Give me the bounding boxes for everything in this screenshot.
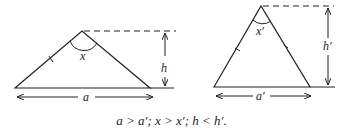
base-label: a — [83, 90, 89, 104]
left-triangle: x h a — [15, 31, 176, 104]
angle-label: x′ — [255, 24, 264, 38]
height-label: h′ — [323, 39, 332, 53]
height-label: h — [161, 61, 167, 75]
equal-side-tick — [112, 56, 116, 60]
base-label: a′ — [256, 89, 265, 103]
figure-caption: a > a′; x > x′; h < h′. — [0, 113, 343, 129]
right-triangle: x′ h′ a′ — [214, 6, 335, 103]
angle-label: x — [79, 49, 86, 63]
